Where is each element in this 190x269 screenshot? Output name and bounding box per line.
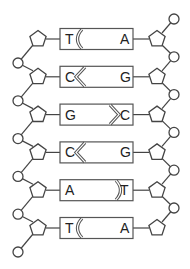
right-base-label: G bbox=[120, 144, 131, 160]
phosphate-icon bbox=[13, 247, 23, 257]
left-base-label: G bbox=[65, 107, 76, 123]
deoxyribose-sugar-icon bbox=[30, 31, 46, 46]
right-base-label: A bbox=[120, 31, 130, 47]
left-base-label: T bbox=[65, 220, 74, 236]
phosphate-icon bbox=[169, 90, 179, 100]
base-pair-row: TA bbox=[13, 14, 179, 68]
phosphate-icon bbox=[13, 58, 23, 68]
phosphate-icon bbox=[169, 203, 179, 213]
right-base-label: T bbox=[120, 182, 129, 198]
right-base-label: A bbox=[120, 220, 130, 236]
phosphate-icon bbox=[169, 14, 179, 24]
phosphate-icon bbox=[13, 171, 23, 181]
phosphate-icon bbox=[13, 134, 23, 144]
right-base-label: G bbox=[120, 69, 131, 85]
left-base-label: T bbox=[65, 31, 74, 47]
base-pair-row: GC bbox=[13, 90, 179, 144]
base-pair-row: TA bbox=[13, 203, 179, 257]
phosphate-icon bbox=[13, 96, 23, 106]
phosphate-icon bbox=[169, 52, 179, 62]
phosphate-icon bbox=[13, 209, 23, 219]
base-pair-row: AT bbox=[13, 165, 179, 219]
phosphate-icon bbox=[169, 165, 179, 175]
phosphate-icon bbox=[169, 127, 179, 137]
left-base-label: A bbox=[65, 182, 75, 198]
dna-diagram: TACGGCCGATTA bbox=[0, 0, 190, 269]
right-base-label: C bbox=[120, 107, 130, 123]
base-pair-row: CG bbox=[13, 127, 179, 181]
left-base-label: C bbox=[65, 69, 75, 85]
base-pair-row: CG bbox=[13, 52, 179, 106]
left-base-label: C bbox=[65, 144, 75, 160]
